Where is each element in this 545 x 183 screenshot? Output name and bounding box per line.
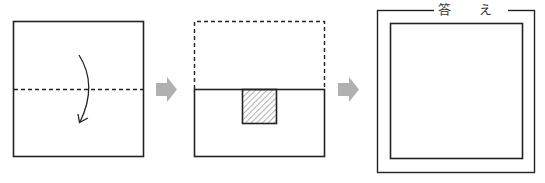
next-step-arrow-icon xyxy=(338,77,359,102)
answer-label: 答 え xyxy=(434,3,508,17)
step2-folded xyxy=(195,22,325,157)
next-step-arrow-icon xyxy=(156,77,177,102)
origami-fold-diagram xyxy=(0,0,545,183)
step1-square xyxy=(14,22,144,157)
answer-box xyxy=(378,11,535,173)
cut-region xyxy=(243,90,277,124)
fold-arrow-icon xyxy=(79,55,89,122)
